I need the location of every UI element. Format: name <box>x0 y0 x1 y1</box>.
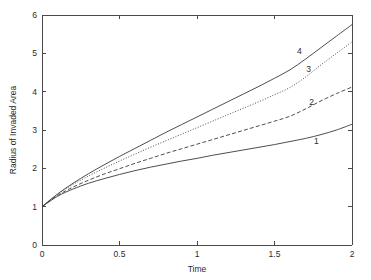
y-tick-label: 5 <box>32 48 37 58</box>
x-tick-label: 0 <box>40 249 45 259</box>
x-tick-label: 1.5 <box>269 249 281 259</box>
curve-label-3: 3 <box>306 64 311 74</box>
y-tick-label: 1 <box>32 202 37 212</box>
y-tick-label: 0 <box>32 240 37 250</box>
curve-label-2: 2 <box>309 97 314 107</box>
x-tick-label: 0.5 <box>114 249 126 259</box>
curve-label-1: 1 <box>314 136 319 146</box>
y-tick-label: 3 <box>32 125 37 135</box>
line-chart-plot: 00.511.52 0123456 1234 Time Radius of In… <box>0 0 371 280</box>
y-tick-label: 2 <box>32 163 37 173</box>
x-axis-title: Time <box>188 264 207 274</box>
x-tick-label: 2 <box>350 249 355 259</box>
y-tick-label: 4 <box>32 87 37 97</box>
y-tick-label: 6 <box>32 10 37 20</box>
y-axis-title: Radius of Invaded Area <box>8 86 18 175</box>
chart-figure: 00.511.52 0123456 1234 Time Radius of In… <box>0 0 371 280</box>
x-tick-label: 1 <box>195 249 200 259</box>
curve-label-4: 4 <box>297 46 302 56</box>
